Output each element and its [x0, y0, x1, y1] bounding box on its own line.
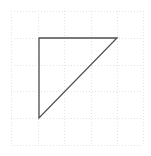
shape-layer — [39, 38, 117, 118]
right-triangle — [39, 38, 117, 118]
figure-svg — [0, 0, 151, 156]
figure-canvas — [0, 0, 151, 156]
